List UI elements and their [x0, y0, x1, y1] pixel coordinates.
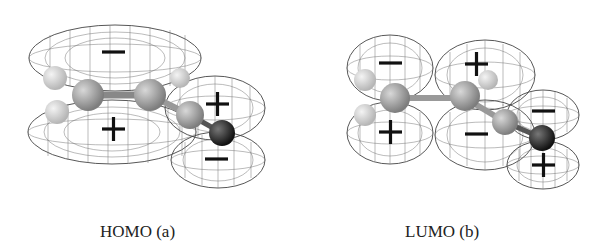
- plus-sign: [379, 120, 402, 144]
- carbon-atom: [492, 109, 518, 135]
- carbon-atom: [72, 79, 104, 111]
- homo-orbital-diagram: [0, 0, 305, 205]
- plus-sign: [532, 153, 555, 177]
- oxygen-atom: [529, 125, 555, 151]
- molecule-skeleton: [43, 66, 235, 146]
- hydrogen-atom: [478, 70, 498, 90]
- carbon-atom: [176, 101, 204, 129]
- oxygen-atom: [209, 120, 235, 146]
- molecule-skeleton: [354, 69, 555, 151]
- lumo-orbital-diagram: [305, 0, 610, 205]
- homo-caption: HOMO (a): [100, 222, 175, 242]
- carbon-atom: [380, 83, 410, 113]
- carbon-atom: [134, 79, 166, 111]
- carbon-atom: [450, 81, 480, 111]
- lumo-caption: LUMO (b): [405, 222, 479, 242]
- lumo-figure: LUMO (b): [305, 0, 610, 245]
- hydrogen-atom: [354, 104, 376, 126]
- plus-sign: [102, 117, 125, 141]
- hydrogen-atom: [170, 68, 190, 88]
- hydrogen-atom: [45, 100, 69, 124]
- hydrogen-atom: [354, 69, 376, 91]
- hydrogen-atom: [43, 66, 67, 90]
- plus-sign: [206, 92, 229, 116]
- homo-figure: HOMO (a): [0, 0, 305, 245]
